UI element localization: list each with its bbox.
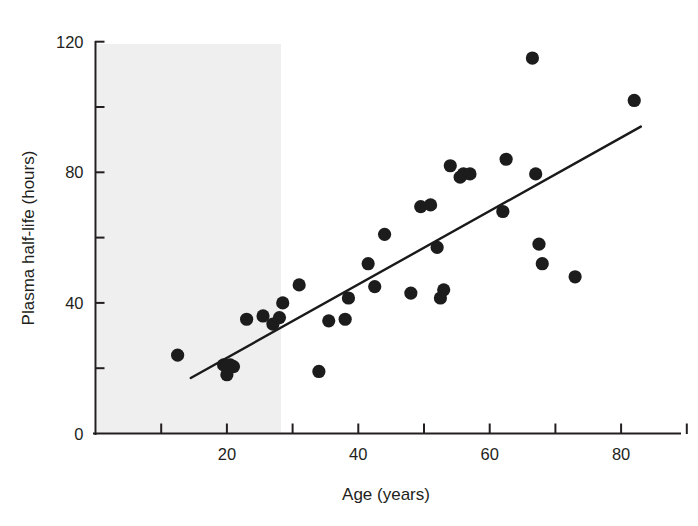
y-tick-label: 120 bbox=[56, 33, 84, 51]
data-point bbox=[569, 270, 582, 283]
data-point bbox=[500, 153, 513, 166]
data-point bbox=[437, 283, 450, 296]
y-tick-label: 0 bbox=[74, 425, 83, 443]
data-point bbox=[424, 198, 437, 211]
data-point bbox=[240, 313, 253, 326]
data-point bbox=[171, 349, 184, 362]
data-point bbox=[368, 280, 381, 293]
data-point bbox=[444, 159, 457, 172]
data-point bbox=[526, 51, 539, 64]
data-point bbox=[536, 257, 549, 270]
data-point bbox=[532, 238, 545, 251]
data-point bbox=[362, 257, 375, 270]
scatter-plot-figure: 04080120 20406080 Age (years) Plasma hal… bbox=[0, 0, 698, 526]
data-point bbox=[463, 167, 476, 180]
y-tick-label: 40 bbox=[65, 294, 83, 312]
data-point bbox=[293, 278, 306, 291]
x-tick-label: 20 bbox=[218, 445, 236, 463]
data-point bbox=[628, 94, 641, 107]
x-axis-title: Age (years) bbox=[342, 485, 430, 504]
chart-canvas: 04080120 20406080 Age (years) Plasma hal… bbox=[0, 0, 698, 526]
plot-area-shading bbox=[97, 44, 281, 434]
data-point bbox=[273, 311, 286, 324]
x-tick-label: 80 bbox=[612, 445, 630, 463]
data-point bbox=[322, 314, 335, 327]
x-tick-label: 60 bbox=[481, 445, 499, 463]
x-tick-label: 40 bbox=[349, 445, 367, 463]
y-axis-title: Plasma half-life (hours) bbox=[19, 151, 38, 326]
data-point bbox=[312, 365, 325, 378]
y-tick-label: 80 bbox=[65, 163, 83, 181]
data-point bbox=[227, 360, 240, 373]
data-point bbox=[276, 296, 289, 309]
data-point bbox=[529, 167, 542, 180]
data-point bbox=[404, 287, 417, 300]
data-point bbox=[378, 228, 391, 241]
data-point bbox=[339, 313, 352, 326]
